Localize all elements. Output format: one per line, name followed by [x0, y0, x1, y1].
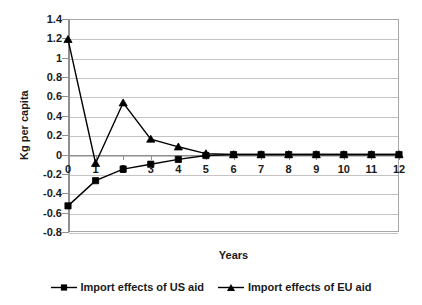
gridline	[69, 97, 398, 98]
x-axis-tick-label: 0	[55, 164, 81, 175]
x-axis-tick	[123, 155, 124, 160]
chart-container: 1.41.210.80.60.40.20-0.2-0.4-0.6-0.8 012…	[0, 0, 422, 305]
plot-area	[68, 19, 399, 232]
x-axis-tick-label: 1	[83, 164, 109, 175]
gridline	[69, 194, 398, 195]
y-axis-tick	[62, 135, 69, 136]
y-axis-tick-label: 1.2	[22, 33, 62, 44]
x-axis-tick-label: 12	[386, 164, 412, 175]
y-axis-tick	[62, 193, 69, 194]
x-axis-tick-label: 4	[165, 164, 191, 175]
y-axis-tick	[62, 77, 69, 78]
x-axis-tick	[234, 155, 235, 160]
y-axis-line	[68, 19, 70, 232]
legend-item-label: Import effects of US aid	[81, 281, 204, 293]
x-axis-tick-label: 7	[248, 164, 274, 175]
gridline	[69, 214, 398, 215]
legend-item[interactable]: Import effects of EU aid	[218, 281, 371, 293]
x-axis-tick	[178, 155, 179, 160]
y-axis-tick	[62, 19, 69, 20]
gridline	[69, 39, 398, 40]
y-axis-tick	[62, 58, 69, 59]
y-axis-tick-label: -0.8	[22, 227, 62, 238]
triangle-marker-icon	[218, 282, 244, 293]
y-axis-tick-label: 0.8	[22, 72, 62, 83]
gridline	[69, 59, 398, 60]
x-axis-tick	[151, 155, 152, 160]
x-axis-tick-label: 11	[358, 164, 384, 175]
x-axis-tick-label: 8	[276, 164, 302, 175]
legend-item[interactable]: Import effects of US aid	[51, 281, 204, 293]
y-axis-tick-label: -0.6	[22, 208, 62, 219]
x-axis-tick-label: 2	[110, 164, 136, 175]
x-axis-tick-label: 3	[138, 164, 164, 175]
y-axis-tick	[62, 232, 69, 233]
x-axis-tick-label: 10	[331, 164, 357, 175]
y-axis-tick	[62, 38, 69, 39]
y-axis-tick	[62, 116, 69, 117]
square-marker-icon	[51, 282, 77, 293]
x-axis-tick-label: 6	[221, 164, 247, 175]
x-axis-tick	[399, 155, 400, 160]
x-axis-tick	[261, 155, 262, 160]
x-axis-tick-label: 9	[303, 164, 329, 175]
legend-item-label: Import effects of EU aid	[248, 281, 371, 293]
x-axis-tick-label: 5	[193, 164, 219, 175]
y-axis-tick	[62, 96, 69, 97]
x-axis-title: Years	[68, 249, 399, 261]
y-axis-tick-label: 1.4	[22, 14, 62, 25]
x-axis-tick	[316, 155, 317, 160]
gridline	[69, 117, 398, 118]
x-axis-tick	[206, 155, 207, 160]
y-axis-tick	[62, 213, 69, 214]
x-axis-tick	[289, 155, 290, 160]
gridline	[69, 136, 398, 137]
gridline	[69, 233, 398, 234]
gridline	[69, 175, 398, 176]
y-axis-title: Kg per capita	[18, 90, 30, 160]
y-axis-tick-label: 1	[22, 53, 62, 64]
y-axis-tick-label: -0.4	[22, 188, 62, 199]
x-axis-tick	[344, 155, 345, 160]
x-axis-tick	[96, 155, 97, 160]
chart-legend: Import effects of US aidImport effects o…	[0, 281, 422, 293]
x-axis-tick	[371, 155, 372, 160]
gridline	[69, 78, 398, 79]
x-axis-tick	[68, 155, 69, 160]
